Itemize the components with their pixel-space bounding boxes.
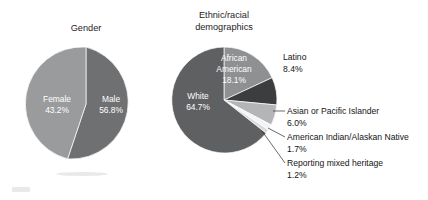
ethnic-label-african-american-name-line2: American	[216, 64, 252, 74]
ethnic-chart-title-line2: demographics	[195, 22, 253, 32]
ethnic-chart-title-line1: Ethnic/racial	[199, 10, 249, 20]
gender-label-female-percent: 43.2%	[45, 105, 69, 115]
scan-artifact-bottom-left	[12, 187, 30, 192]
ethnic-label-white-name: White	[187, 91, 209, 101]
ethnic-callout-latino-name: Latino	[283, 52, 307, 62]
ethnic-callout-reporting-mixed-heritage-name: Reporting mixed heritage	[287, 158, 383, 168]
gender-chart-title: Gender	[71, 23, 102, 33]
ethnic-callout-american-indian-alaskan-native-percent: 1.7%	[287, 144, 307, 154]
ethnic-label-african-american-percent: 18.1%	[222, 75, 246, 85]
ethnic-callout-latino-percent: 8.4%	[283, 64, 303, 74]
gender-label-female-name: Female	[43, 94, 71, 104]
ethnic-label-white-percent: 64.7%	[186, 102, 210, 112]
figure-pie-charts: Gender Male 56.8% Female 43.2% Ethnic/ra…	[0, 0, 428, 200]
gender-label-male-name: Male	[102, 94, 120, 104]
charts-canvas: Gender Male 56.8% Female 43.2% Ethnic/ra…	[0, 0, 428, 200]
ethnic-callout-asian-pacific-islander-percent: 6.0%	[287, 118, 307, 128]
ethnic-label-african-american-name-line1: African	[221, 53, 247, 63]
ethnic-callout-american-indian-alaskan-native-name: American Indian/Alaskan Native	[287, 132, 409, 142]
ethnic-callout-asian-pacific-islander-name: Asian or Pacific Islander	[287, 106, 379, 116]
gender-label-male-percent: 56.8%	[99, 105, 123, 115]
scan-artifact-under-gender-pie	[56, 172, 108, 176]
ethnic-callout-reporting-mixed-heritage-percent: 1.2%	[287, 170, 307, 180]
